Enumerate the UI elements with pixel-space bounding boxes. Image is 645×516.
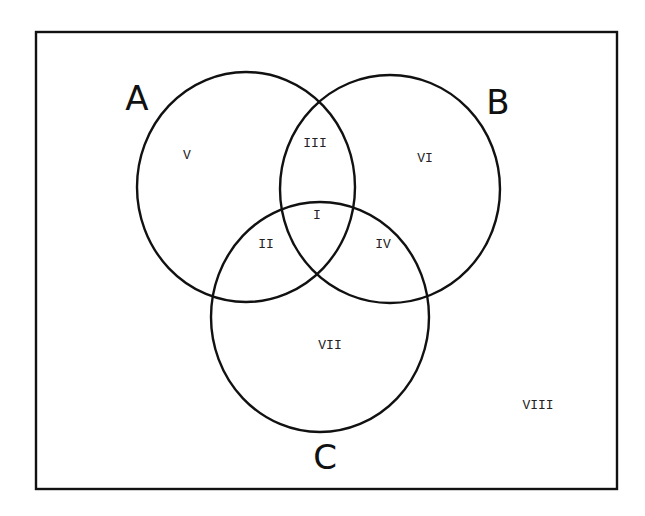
set-b-label: B: [486, 82, 509, 122]
region-vi-label: VI: [417, 151, 433, 166]
set-b-circle: [280, 75, 500, 303]
region-iv-label: IV: [375, 237, 391, 252]
set-a-label: A: [125, 78, 148, 118]
region-viii-label: VIII: [522, 398, 553, 413]
set-c-circle: [211, 202, 429, 432]
venn-diagram: A B C I II III IV V VI VII VIII: [0, 0, 645, 516]
region-iii-label: III: [303, 136, 326, 151]
set-a-circle: [137, 72, 355, 302]
region-v-label: V: [183, 148, 191, 163]
region-ii-label: II: [258, 237, 274, 252]
set-c-label: C: [313, 437, 337, 477]
region-vii-label: VII: [318, 338, 341, 353]
universe-frame: [36, 32, 617, 489]
region-i-label: I: [313, 208, 321, 223]
